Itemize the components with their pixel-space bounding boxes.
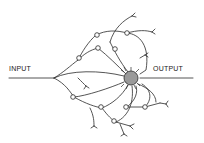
synapse-node [143,105,148,110]
synapse-node [112,119,117,124]
soma-node [121,67,140,89]
neuron-diagram: INPUT OUTPUT [0,0,204,143]
synapse-node [95,33,100,38]
network-graphic [0,0,204,143]
synapse-node [113,47,118,52]
synapse-node [125,31,130,36]
synapse-node [124,105,129,110]
synapse-node [99,105,104,110]
synapse-node [77,56,82,61]
synapse-node [96,46,101,51]
synapse-node [71,95,76,100]
